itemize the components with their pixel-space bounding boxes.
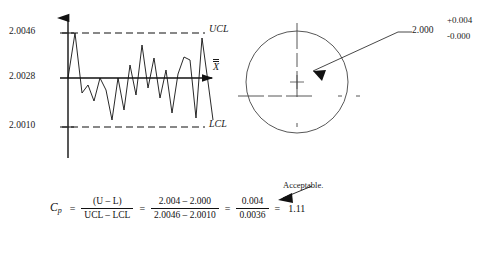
chart-y-label-center-value: 2.0028 (9, 72, 35, 82)
cp-fraction-numeric-denominator: 2.0046 – 2.0010 (151, 209, 219, 221)
cp-fraction-numeric: 2.004 – 2.000 2.0046 – 2.0010 (151, 196, 219, 221)
chart-data-line (68, 33, 213, 120)
cp-fraction-symbolic: (U – L) UCL – LCL (81, 196, 133, 221)
cp-symbol: Cp (50, 201, 64, 215)
cp-fraction-numeric-numerator: 2.004 – 2.000 (156, 196, 214, 208)
chart-y-label-lcl-value: 2.0010 (9, 121, 35, 131)
feature-circle-drawing (238, 23, 412, 141)
acceptable-annotation: Acceptable. (283, 181, 323, 190)
cp-symbol-letter: C (50, 201, 58, 213)
dimension-leader-line (313, 32, 398, 71)
chart-lcl-label: LCL (209, 119, 227, 129)
cp-symbol-subscript: p (58, 207, 62, 216)
x-bar-symbol: X (213, 62, 219, 72)
cp-equals-1: = (64, 203, 82, 214)
dimension-leader-arrow (313, 70, 326, 81)
cp-fraction-reduced-numerator: 0.004 (239, 196, 266, 208)
figure-container: 2.0046 2.0028 2.0010 UCL LCL X 2.000 +0.… (0, 0, 488, 258)
chart-y-label-ucl-value: 2.0046 (9, 27, 35, 37)
chart-ucl-label: UCL (209, 24, 228, 34)
cp-fraction-symbolic-denominator: UCL – LCL (81, 209, 133, 221)
feature-tolerance-upper: +0.004 (447, 16, 472, 25)
cp-equation: Cp = (U – L) UCL – LCL = 2.004 – 2.000 2… (50, 196, 305, 221)
cp-equals-4: = (269, 203, 287, 214)
cp-fraction-symbolic-numerator: (U – L) (90, 196, 125, 208)
cp-fraction-reduced: 0.004 0.0036 (236, 196, 268, 221)
feature-dimension-label: 2.000 (412, 26, 433, 36)
cp-result-value: 1.11 (286, 203, 305, 214)
feature-tolerance-lower: -0.000 (447, 32, 470, 41)
cp-fraction-reduced-denominator: 0.0036 (236, 209, 268, 221)
chart-center-label: X (213, 62, 219, 72)
control-chart-axes (60, 18, 212, 158)
cp-equals-2: = (133, 203, 151, 214)
cp-equals-3: = (219, 203, 237, 214)
